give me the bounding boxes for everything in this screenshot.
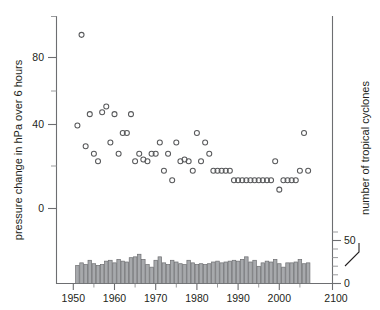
histogram-bar	[179, 264, 183, 284]
bottom-tick-label-2100: 2100	[324, 292, 348, 304]
histogram-bar	[166, 265, 170, 284]
left-tick-label-0: 0	[38, 202, 44, 214]
histogram-bar	[302, 264, 306, 284]
histogram-bar	[286, 263, 290, 284]
histogram-bar	[249, 262, 253, 284]
histogram-bar	[306, 263, 310, 284]
histogram-bar	[195, 265, 199, 284]
histogram-bar	[117, 259, 121, 283]
histogram-bar	[162, 263, 166, 284]
scatter-point	[83, 144, 88, 149]
bottom-tick-label-1950: 1950	[62, 292, 86, 304]
histogram-bar	[290, 263, 294, 284]
scatter-point	[203, 140, 208, 145]
histogram-bar	[232, 260, 236, 283]
scatter-point	[145, 159, 150, 164]
histogram-bar	[212, 262, 216, 284]
scatter-point	[194, 131, 199, 136]
histogram-bar	[273, 259, 277, 283]
scatter-point	[297, 168, 302, 173]
histogram-bar	[191, 263, 195, 284]
histogram-bar	[100, 265, 104, 284]
histogram-bar	[137, 254, 141, 283]
histogram-bar	[240, 259, 244, 283]
scatter-point	[96, 159, 101, 164]
scatter-point	[91, 151, 96, 156]
right-tick-label-0: 0	[344, 277, 350, 289]
histogram-bar	[183, 265, 187, 284]
bottom-tick-label-1980: 1980	[185, 292, 209, 304]
histogram-bar	[175, 262, 179, 284]
scatter-point	[186, 159, 191, 164]
histogram-bar	[170, 260, 174, 283]
histogram-bar	[216, 261, 220, 283]
histogram-bar	[125, 262, 129, 284]
scatter-point	[199, 159, 204, 164]
scatter-point	[273, 159, 278, 164]
histogram-bar	[261, 263, 265, 284]
histogram-bar	[203, 265, 207, 284]
histogram-bar	[207, 264, 211, 284]
histogram-bar	[294, 262, 298, 284]
scatter-point	[170, 178, 175, 183]
histogram-bar	[113, 263, 117, 284]
left-axis-title: pressure change in hPa over 6 hours	[12, 59, 24, 240]
histogram-bar	[92, 264, 96, 284]
histogram-bar	[245, 257, 249, 284]
right-axis-title: number of tropical cyclones	[359, 81, 371, 215]
scatter-point	[116, 151, 121, 156]
histogram-bar	[76, 265, 80, 283]
scatter-point	[174, 140, 179, 145]
left-tick-label-40: 40	[32, 118, 44, 130]
histogram-bar	[121, 261, 125, 283]
histogram-bar	[150, 267, 154, 283]
scatter-point	[104, 104, 109, 109]
chart-figure: 80 40 0 pressure change in hPa over 6 ho…	[0, 0, 380, 310]
scatter-point	[108, 140, 113, 145]
histogram-bar	[224, 262, 228, 284]
histogram-bar	[278, 264, 282, 284]
scatter-point	[157, 140, 162, 145]
histogram-bar	[80, 263, 84, 284]
scatter-point	[112, 112, 117, 117]
histogram-bar	[282, 267, 286, 283]
histogram-bar	[257, 266, 261, 283]
left-axis: 80 40 0 pressure change in hPa over 6 ho…	[12, 16, 57, 284]
scatter-point	[87, 112, 92, 117]
histogram-bar	[298, 259, 302, 283]
histogram-bar	[253, 260, 257, 283]
histogram-bar	[88, 260, 92, 283]
histogram-bars-layer	[76, 254, 310, 283]
bottom-tick-label-1960: 1960	[103, 292, 127, 304]
scatter-point	[190, 168, 195, 173]
histogram-bar	[109, 260, 113, 283]
histogram-bar	[187, 260, 191, 283]
bottom-tick-label-1990: 1990	[226, 292, 250, 304]
right-tick-label-50: 50	[344, 234, 356, 246]
histogram-bar	[129, 258, 133, 284]
scatter-point	[133, 159, 138, 164]
histogram-bar	[104, 261, 108, 283]
scatter-point	[79, 32, 84, 37]
scatter-point	[277, 187, 282, 192]
right-axis: 50 0 number of tropical cyclones	[333, 16, 372, 289]
chart-svg: 80 40 0 pressure change in hPa over 6 ho…	[0, 0, 380, 310]
scatter-point	[302, 131, 307, 136]
histogram-bar	[269, 262, 273, 284]
scatter-points-layer	[75, 32, 311, 192]
histogram-bar	[146, 265, 150, 284]
right-axis-brace	[345, 243, 359, 266]
histogram-bar	[199, 264, 203, 284]
scatter-point	[207, 151, 212, 156]
histogram-bar	[133, 257, 137, 284]
scatter-point	[306, 168, 311, 173]
histogram-bar	[96, 265, 100, 283]
histogram-bar	[265, 261, 269, 283]
scatter-point	[161, 168, 166, 173]
scatter-point	[75, 123, 80, 128]
bottom-tick-label-2000: 2000	[268, 292, 292, 304]
histogram-bar	[228, 261, 232, 283]
histogram-bar	[142, 259, 146, 283]
bottom-tick-label-1970: 1970	[144, 292, 168, 304]
left-tick-label-80: 80	[32, 51, 44, 63]
